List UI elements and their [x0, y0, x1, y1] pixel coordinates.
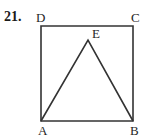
problem-figure-page: 21. D C E A B [0, 0, 147, 139]
geometry-figure [0, 0, 147, 139]
vertex-label-c: C [131, 11, 140, 24]
vertex-label-d: D [36, 11, 45, 24]
triangle-outline [41, 40, 133, 121]
vertex-label-e: E [92, 27, 100, 40]
triangle-abe-path [41, 40, 133, 121]
vertex-label-b: B [130, 124, 139, 137]
vertex-label-a: A [38, 124, 47, 137]
